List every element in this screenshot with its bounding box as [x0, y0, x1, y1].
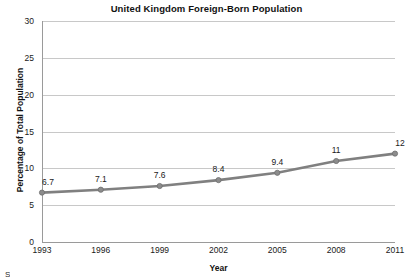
plot-area: 6.77.17.68.49.41112 [42, 21, 395, 243]
x-tick-label: 2005 [257, 246, 297, 255]
x-tick-label: 2008 [316, 246, 356, 255]
data-point-label: 11 [322, 146, 350, 155]
y-tick-label: 5 [0, 201, 34, 210]
data-point-label: 12 [386, 139, 413, 148]
y-tick-label: 15 [0, 128, 34, 137]
x-tick-label: 1999 [140, 246, 180, 255]
x-axis-title: Year [42, 263, 395, 273]
chart-title: United Kingdom Foreign-Born Population [0, 3, 413, 14]
x-tick-label: 2011 [375, 246, 413, 255]
data-series-line [42, 21, 395, 243]
data-point-label: 9.4 [263, 158, 291, 167]
x-tick-label: 2002 [199, 246, 239, 255]
x-tick-label: 1996 [81, 246, 121, 255]
x-tick-label: 1993 [22, 246, 62, 255]
y-tick-label: 10 [0, 164, 34, 173]
y-tick-label: 20 [0, 91, 34, 100]
y-tick-label: 25 [0, 54, 34, 63]
y-tick-label: 30 [0, 17, 34, 26]
source-note: S [5, 270, 10, 279]
data-point-label: 8.4 [205, 165, 233, 174]
data-point-label: 7.6 [146, 171, 174, 180]
data-point-label: 6.7 [34, 178, 62, 187]
data-point-label: 7.1 [87, 175, 115, 184]
chart-container: United Kingdom Foreign-Born Population P… [0, 0, 413, 280]
